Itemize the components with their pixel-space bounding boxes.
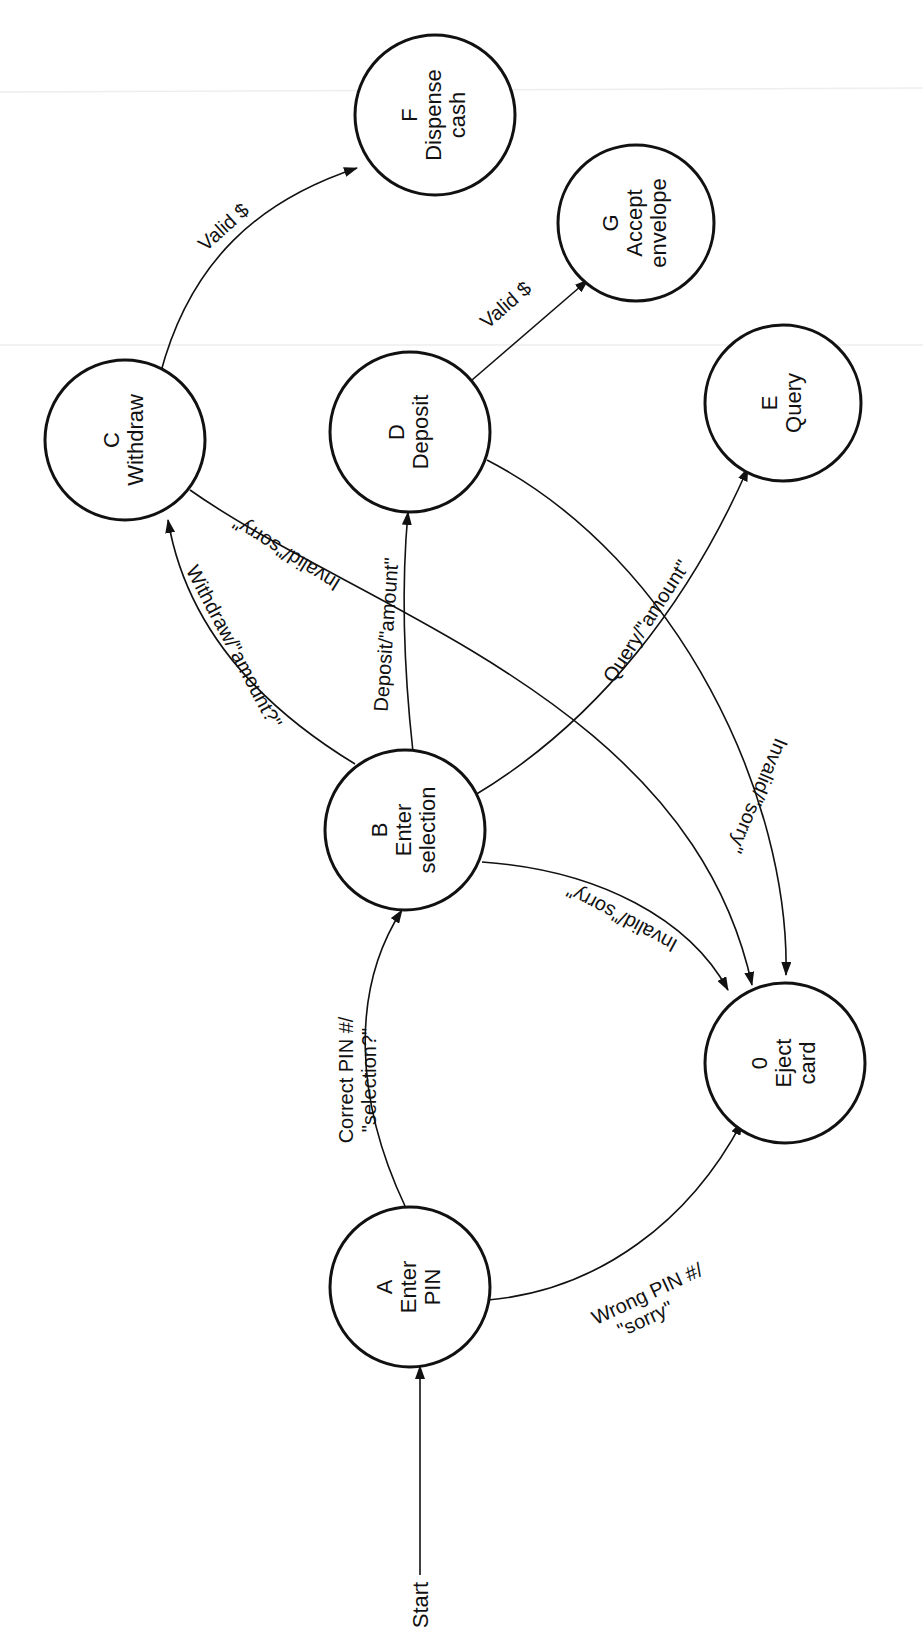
node-d-id: D <box>384 424 409 440</box>
state-node-f: F Dispense cash <box>355 35 515 195</box>
state-node-g: G Accept envelope <box>558 145 714 301</box>
edge-b-to-0: Invalid/"sorry" <box>482 862 728 990</box>
state-node-eject: 0 Eject card <box>705 983 865 1143</box>
node-a-id: A <box>372 1279 397 1294</box>
edge-c-to-f: Valid $ <box>160 168 357 375</box>
node-f-line3: cash <box>445 92 470 138</box>
state-node-a: A Enter PIN <box>330 1207 490 1367</box>
edge-label-a-b-2: "selection?" <box>358 1028 380 1132</box>
edge-label-a-b-1: Correct PIN #/ <box>335 1016 357 1143</box>
node-f-id: F <box>397 108 422 121</box>
edge-d-to-g: Valid $ <box>472 277 588 380</box>
state-node-b: B Enter selection <box>325 750 485 910</box>
node-0-id: 0 <box>747 1057 772 1069</box>
state-node-d: D Deposit <box>330 352 490 512</box>
node-b-line3: selection <box>415 787 440 874</box>
edge-start-to-a: Start <box>408 1366 433 1628</box>
node-b-id: B <box>367 823 392 838</box>
node-c-id: C <box>99 432 124 448</box>
edge-label-b-e: Query/"amount" <box>599 556 694 686</box>
edge-label-c-f: Valid $ <box>194 199 253 255</box>
state-diagram: Start Correct PIN #/ "selection?" Wrong … <box>0 0 923 1635</box>
node-0-line2: Eject <box>771 1039 796 1088</box>
node-c-line2: Withdraw <box>123 394 148 486</box>
node-e-id: E <box>757 396 782 411</box>
node-g-line2: Accept <box>622 189 647 256</box>
edge-label-d-g: Valid $ <box>476 277 535 333</box>
node-b-line2: Enter <box>391 804 416 857</box>
node-a-line3: PIN <box>420 1269 445 1306</box>
edge-label-d-0: Invalid/"sorry" <box>724 735 792 856</box>
edge-a-to-b: Correct PIN #/ "selection?" <box>335 910 405 1206</box>
edge-b-to-c: Withdraw/"amount?" <box>168 520 355 764</box>
edge-b-to-d: Deposit/"amount" <box>370 512 413 752</box>
node-0-line3: card <box>795 1042 820 1085</box>
edge-label-b-c: Withdraw/"amount?" <box>182 562 286 732</box>
node-f-line2: Dispense <box>421 69 446 161</box>
edge-label-b-d: Deposit/"amount" <box>370 557 403 712</box>
state-node-e: E Query <box>705 325 861 481</box>
node-a-line2: Enter <box>396 1261 421 1314</box>
node-g-line3: envelope <box>646 178 671 267</box>
node-d-line2: Deposit <box>408 395 433 470</box>
edge-b-to-e: Query/"amount" <box>475 468 748 795</box>
start-label: Start <box>408 1582 433 1628</box>
edge-label-c-0: Invalid/"sorry" <box>229 512 344 595</box>
edge-d-to-0: Invalid/"sorry" <box>487 460 792 975</box>
node-g-id: G <box>598 214 623 231</box>
state-node-c: C Withdraw <box>45 360 205 520</box>
edge-a-to-0: Wrong PIN #/ "sorry" <box>488 1122 742 1341</box>
edge-c-to-0: Invalid/"sorry" <box>190 490 752 985</box>
node-e-line2: Query <box>781 373 806 433</box>
edge-label-b-0: Invalid/"sorry" <box>563 880 681 957</box>
